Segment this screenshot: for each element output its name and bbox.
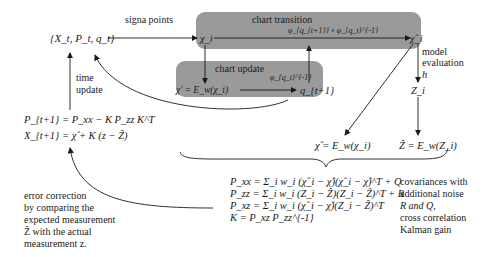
- time-update-label-2: update: [76, 84, 103, 95]
- error-note-4: Ẑ with the actual: [24, 226, 91, 237]
- covariance-note-4: cross correlation: [400, 212, 466, 223]
- chart-update-label: chart update: [215, 63, 264, 74]
- error-note-5: measurement z.: [24, 238, 87, 249]
- z-i-node: Z_i: [411, 85, 425, 96]
- chi-hat-node: χ̂_i: [410, 33, 423, 44]
- covariance-note-1: covariances with: [400, 176, 467, 187]
- time-update-label-1: time: [76, 72, 94, 83]
- z-mean-node: Ẑ = E_w(Z_i): [399, 140, 457, 151]
- chart-transition-label: chart transition: [252, 14, 312, 25]
- pxx-equation: P_xx = Σ_i w_i (χ̂_i − χ̂)(χ̂_i − χ̂)^T …: [230, 176, 402, 187]
- covariance-note-2: additional noise: [400, 188, 464, 199]
- p-next-equation: P_{t+1} = P_xx − K P_zz K^T: [24, 114, 154, 125]
- model-evaluation-label-1: model: [422, 46, 447, 57]
- chi-node: χ_i: [200, 33, 213, 44]
- state-node: {X_t, P_t, q_t}: [50, 33, 114, 44]
- pzz-equation: P_zz = Σ_i w_i (Z_i − Ẑ)(Z_i − Ẑ)^T + R: [230, 188, 404, 199]
- h-label: h: [422, 69, 427, 80]
- sigma-points-label: signa points: [125, 14, 173, 25]
- model-evaluation-label-2: evaluation: [422, 57, 464, 68]
- phi-update-label: φ_{q_t}^{-1}: [270, 72, 311, 83]
- covariance-note-3: R and Q,: [400, 200, 436, 211]
- kalman-gain-equation: K = P_xz P_zz^{-1}: [230, 212, 314, 223]
- chi-mean-node: χ̂ = E_w(χ_i): [315, 140, 370, 151]
- covariance-note-5: Kalman gain: [400, 224, 451, 235]
- q-next-node: q_{t+1}: [300, 85, 334, 96]
- x-next-equation: X_{t+1} = χ̂ + K (z − Ẑ): [24, 130, 128, 141]
- error-note-3: expected measurement: [24, 214, 115, 225]
- chi-prime-node: χ' = E_w(χ_i): [176, 85, 228, 96]
- error-note-2: by comparing the: [24, 202, 94, 213]
- pxz-equation: P_xz = Σ_i w_i (χ̂_i − χ̂)(Z_i − Ẑ)^T: [230, 200, 384, 211]
- phi-transition-label: φ_{q_{t+1}} ∘ φ_{q_t}^{-1}: [288, 25, 378, 36]
- error-note-1: error correction: [24, 190, 86, 201]
